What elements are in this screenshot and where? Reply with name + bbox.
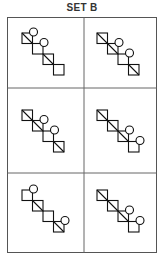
diagonal-line bbox=[108, 201, 119, 212]
diagonal-line bbox=[97, 190, 108, 201]
diagonal-line bbox=[54, 142, 65, 153]
figure-cell-3 bbox=[22, 110, 64, 152]
figure-cell-6 bbox=[97, 190, 144, 232]
circle-shape bbox=[136, 217, 144, 225]
circle-shape bbox=[40, 116, 48, 124]
diagonal-line bbox=[129, 65, 140, 76]
circle-shape bbox=[30, 28, 38, 36]
circle-shape bbox=[30, 185, 38, 193]
diagonal-line bbox=[97, 110, 108, 121]
diagonal-line bbox=[43, 54, 54, 65]
diagonal-line bbox=[33, 201, 44, 212]
circle-shape bbox=[40, 39, 48, 47]
circle-shape bbox=[51, 126, 59, 134]
circle-shape bbox=[136, 137, 144, 145]
figure-grid bbox=[0, 0, 164, 255]
circle-shape bbox=[126, 206, 134, 214]
circle-shape bbox=[126, 49, 134, 57]
circle-shape bbox=[115, 39, 123, 47]
square-shape bbox=[54, 65, 65, 76]
figure-cell-5 bbox=[22, 185, 69, 232]
grid-frame bbox=[8, 18, 157, 253]
circle-shape bbox=[61, 217, 69, 225]
square-shape bbox=[43, 211, 54, 222]
figure-cell-2 bbox=[97, 33, 139, 75]
circle-shape bbox=[126, 126, 134, 134]
diagonal-line bbox=[97, 33, 108, 44]
diagonal-line bbox=[108, 121, 119, 132]
figure-cell-4 bbox=[97, 110, 144, 152]
figure-cell-1 bbox=[22, 28, 64, 75]
diagonal-line bbox=[22, 110, 33, 121]
